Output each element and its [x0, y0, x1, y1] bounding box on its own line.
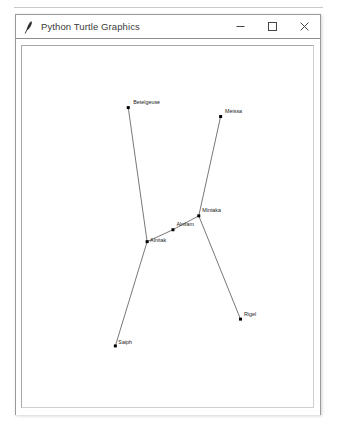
constellation-canvas[interactable]: BetelgeuseMeissaMintakaAlnilamAlnitakRig…: [22, 46, 313, 406]
star-point: [171, 228, 174, 231]
constellation-line: [128, 108, 147, 242]
star-label: Meissa: [225, 108, 242, 114]
star-point: [197, 214, 200, 217]
constellation-line: [199, 216, 241, 319]
star-point: [239, 318, 242, 321]
star-point: [114, 344, 117, 347]
star-point: [146, 240, 149, 243]
top-divider: [14, 7, 323, 8]
constellation-labels: BetelgeuseMeissaMintakaAlnilamAlnitakRig…: [118, 99, 256, 345]
close-icon: [299, 21, 310, 32]
star-label: Mintaka: [202, 207, 221, 213]
star-label: Alnitak: [150, 237, 166, 243]
star-label: Saiph: [118, 339, 132, 345]
maximize-icon: [267, 21, 278, 32]
turtle-graphics-window: Python Turtle Graphics BetelgeuseMeissaM…: [15, 14, 321, 415]
star-label: Alnilam: [176, 221, 194, 227]
feather-pen-icon: [21, 19, 37, 35]
window-titlebar[interactable]: Python Turtle Graphics: [16, 15, 320, 39]
star-label: Rigel: [244, 311, 256, 317]
turtle-canvas-frame[interactable]: BetelgeuseMeissaMintakaAlnilamAlnitakRig…: [21, 45, 314, 408]
constellation-line: [115, 242, 147, 346]
minimize-icon: [235, 21, 246, 32]
maximize-button[interactable]: [256, 15, 288, 38]
window-client-area: BetelgeuseMeissaMintakaAlnilamAlnitakRig…: [16, 39, 320, 415]
window-title: Python Turtle Graphics: [41, 15, 224, 39]
close-button[interactable]: [288, 15, 320, 38]
minimize-button[interactable]: [224, 15, 256, 38]
star-label: Betelgeuse: [133, 99, 160, 105]
star-point: [127, 106, 130, 109]
star-point: [219, 115, 222, 118]
constellation-line: [199, 117, 221, 216]
